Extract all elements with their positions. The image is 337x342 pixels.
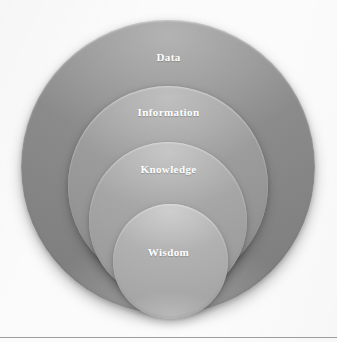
ring-label-knowledge: Knowledge xyxy=(0,163,337,175)
ring-label-information: Information xyxy=(0,106,337,118)
dikw-diagram: Data Information Knowledge Wisdom xyxy=(0,0,337,342)
baseline-rule xyxy=(0,337,337,338)
ring-label-wisdom: Wisdom xyxy=(0,246,337,258)
ring-label-data: Data xyxy=(0,51,337,63)
ring-wisdom[interactable] xyxy=(113,204,228,319)
